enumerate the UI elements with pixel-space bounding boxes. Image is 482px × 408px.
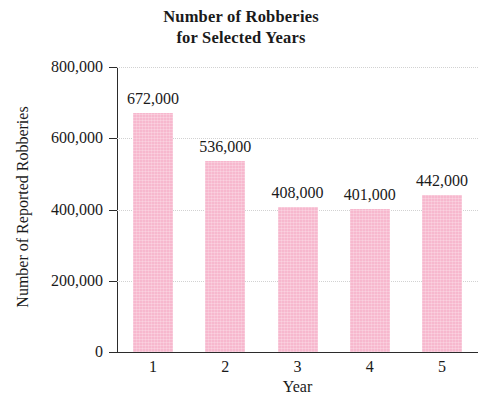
bar-value-label: 672,000	[107, 90, 199, 108]
y-tick: 800,000	[109, 67, 117, 68]
x-axis-title: Year	[117, 378, 478, 396]
y-tick-label: 400,000	[51, 201, 103, 219]
bar-value-label: 442,000	[396, 172, 482, 190]
y-tick: 400,000	[109, 210, 117, 211]
y-axis-title: Number of Reported Robberies	[14, 62, 32, 352]
y-tick-label: 200,000	[51, 272, 103, 290]
y-tick: 0	[109, 352, 117, 353]
x-tick-label: 3	[278, 358, 318, 376]
bar	[278, 207, 318, 352]
x-tick-label: 1	[133, 358, 173, 376]
chart-title-line-2: for Selected Years	[0, 27, 482, 48]
y-tick-label: 600,000	[51, 129, 103, 147]
x-tick-label: 2	[205, 358, 245, 376]
bar	[205, 161, 245, 352]
bar-value-label: 536,000	[179, 138, 271, 156]
bar-chart: Number of Robberies for Selected Years N…	[0, 0, 482, 408]
gridline	[117, 67, 478, 68]
x-axis-line	[117, 352, 478, 353]
bar	[350, 209, 390, 352]
y-tick: 200,000	[109, 281, 117, 282]
bar	[133, 113, 173, 352]
chart-title: Number of Robberies for Selected Years	[0, 6, 482, 48]
plot-area: 0200,000400,000600,000800,000 672,000536…	[117, 67, 478, 352]
y-tick-label: 800,000	[51, 58, 103, 76]
chart-title-line-1: Number of Robberies	[0, 6, 482, 27]
x-tick-label: 5	[422, 358, 462, 376]
bar	[422, 195, 462, 352]
x-tick-label: 4	[350, 358, 390, 376]
y-tick-label: 0	[95, 343, 103, 361]
y-tick: 600,000	[109, 138, 117, 139]
